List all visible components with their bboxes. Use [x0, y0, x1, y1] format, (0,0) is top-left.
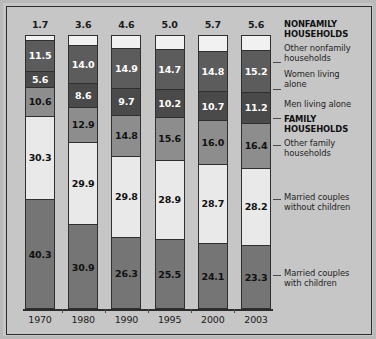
segment-value-label: 28.9	[158, 195, 181, 205]
legend-group-heading: HOUSEHOLDS	[284, 125, 376, 135]
bar-stack: 5.615.211.216.428.223.3	[241, 35, 271, 309]
segment-value-label: 15.2	[245, 67, 268, 77]
bar-stack: 1.711.55.610.630.340.3	[25, 35, 55, 309]
bar-segment[interactable]: 10.2	[156, 90, 184, 118]
segment-value-label: 5.6	[32, 75, 48, 85]
bar-segment[interactable]: 5.6	[26, 72, 54, 87]
bar-stack: 5.014.710.215.628.925.5	[155, 35, 185, 309]
segment-value-label: 14.7	[158, 65, 181, 75]
legend-entry-label: households	[284, 54, 376, 64]
bar-segment[interactable]: 16.4	[242, 124, 270, 169]
bar-segment[interactable]: 5.0	[156, 36, 184, 50]
legend-leader-line	[273, 89, 281, 90]
bar-segment[interactable]: 25.5	[156, 240, 184, 309]
segment-value-label: 14.8	[201, 67, 224, 77]
bar-segment[interactable]: 12.9	[69, 108, 97, 143]
bar-segment[interactable]: 14.9	[112, 49, 140, 90]
segment-value-label: 10.7	[201, 102, 224, 112]
bar-segment[interactable]: 28.2	[242, 169, 270, 246]
bar-group-2003[interactable]: 5.65.615.211.216.428.223.3	[241, 35, 271, 309]
bar-segment[interactable]: 3.6	[69, 36, 97, 46]
bar-stack: 3.614.08.612.929.930.9	[68, 35, 98, 309]
chart-figure: 1.71.711.55.610.630.340.33.63.614.08.612…	[0, 0, 376, 339]
segment-value-label: 40.3	[29, 250, 52, 260]
bar-segment[interactable]: 29.9	[69, 143, 97, 225]
segment-value-label: 24.1	[201, 272, 224, 282]
bar-group-1970[interactable]: 1.71.711.55.610.630.340.3	[25, 35, 55, 309]
x-axis-label-1995: 1995	[155, 314, 185, 325]
bar-segment[interactable]: 9.7	[112, 89, 140, 116]
bar-segment[interactable]: 26.3	[112, 238, 140, 309]
segment-value-label: 28.7	[201, 199, 224, 209]
bar-top-value: 5.6	[241, 19, 271, 30]
bar-segment[interactable]: 5.7	[199, 36, 227, 52]
bar-segment[interactable]: 8.6	[69, 84, 97, 108]
bar-segment[interactable]: 14.0	[69, 46, 97, 84]
segment-value-label: 30.3	[29, 153, 52, 163]
segment-value-label: 14.9	[115, 64, 138, 74]
segment-value-label: 8.6	[75, 91, 91, 101]
chart-frame: 1.71.711.55.610.630.340.33.63.614.08.612…	[6, 6, 372, 335]
segment-value-label: 29.8	[115, 192, 138, 202]
segment-value-label: 11.5	[29, 51, 52, 61]
bar-top-value: 5.0	[155, 19, 185, 30]
bar-segment[interactable]: 4.6	[112, 36, 140, 49]
bar-segment[interactable]: 40.3	[26, 200, 54, 309]
legend-entry-label: with children	[284, 279, 376, 289]
bar-group-1980[interactable]: 3.63.614.08.612.929.930.9	[68, 35, 98, 309]
segment-value-label: 28.2	[245, 202, 268, 212]
x-axis-tick	[105, 309, 106, 313]
x-axis-label-2000: 2000	[198, 314, 228, 325]
bar-segment[interactable]: 15.2	[242, 51, 270, 93]
segment-value-label: 14.8	[115, 131, 138, 141]
bar-stack: 5.714.810.716.028.724.1	[198, 35, 228, 309]
x-axis-tick	[191, 309, 192, 313]
bar-top-value: 3.6	[68, 19, 98, 30]
bar-segment[interactable]: 10.6	[26, 88, 54, 117]
bar-segment[interactable]: 14.8	[199, 52, 227, 93]
segment-value-label: 16.4	[245, 141, 268, 151]
legend-entry-label: Men living alone	[284, 100, 376, 110]
bar-top-value: 4.6	[111, 19, 141, 30]
bar-segment[interactable]: 30.3	[26, 117, 54, 200]
bar-segment[interactable]: 28.7	[199, 165, 227, 244]
segment-value-label: 10.6	[29, 97, 52, 107]
bar-segment[interactable]: 16.0	[199, 121, 227, 165]
bar-segment[interactable]: 11.5	[26, 41, 54, 73]
bar-segment[interactable]: 14.7	[156, 50, 184, 90]
bar-segment[interactable]: 28.9	[156, 161, 184, 240]
segment-value-label: 16.0	[201, 138, 224, 148]
bar-stack: 4.614.99.714.829.826.3	[111, 35, 141, 309]
plot-area: 1.71.711.55.610.630.340.33.63.614.08.612…	[25, 35, 271, 309]
segment-value-label: 9.7	[118, 97, 134, 107]
bar-segment[interactable]: 29.8	[112, 157, 140, 239]
bar-segment[interactable]: 15.6	[156, 118, 184, 161]
x-axis-label-1990: 1990	[111, 314, 141, 325]
legend-leader-line	[273, 62, 281, 63]
bar-segment[interactable]: 5.6	[242, 36, 270, 51]
bar-segment[interactable]: 24.1	[199, 244, 227, 309]
segment-value-label: 29.9	[72, 179, 95, 189]
segment-value-label: 15.6	[158, 134, 181, 144]
segment-value-label: 25.5	[158, 270, 181, 280]
segment-value-label: 26.3	[115, 269, 138, 279]
segment-value-label: 11.2	[245, 103, 268, 113]
bar-group-1995[interactable]: 5.05.014.710.215.628.925.5	[155, 35, 185, 309]
legend-leader-line	[273, 199, 281, 200]
bar-segment[interactable]: 30.9	[69, 225, 97, 309]
segment-value-label: 12.9	[72, 120, 95, 130]
bar-segment[interactable]: 11.2	[242, 93, 270, 124]
segment-value-label: 10.2	[158, 99, 181, 109]
bar-segment[interactable]: 14.8	[112, 116, 140, 157]
x-axis-label-1980: 1980	[68, 314, 98, 325]
legend-leader-line	[273, 118, 281, 119]
bar-group-1990[interactable]: 4.64.614.99.714.829.826.3	[111, 35, 141, 309]
x-axis-label-2003: 2003	[241, 314, 271, 325]
bar-segment[interactable]: 10.7	[199, 92, 227, 121]
legend-leader-line	[273, 275, 281, 276]
x-axis-tick	[148, 309, 149, 313]
legend-entry-label: without children	[284, 203, 376, 213]
bar-segment[interactable]: 23.3	[242, 246, 270, 309]
bar-group-2000[interactable]: 5.75.714.810.716.028.724.1	[198, 35, 228, 309]
legend-group-heading: HOUSEHOLDS	[284, 30, 376, 40]
